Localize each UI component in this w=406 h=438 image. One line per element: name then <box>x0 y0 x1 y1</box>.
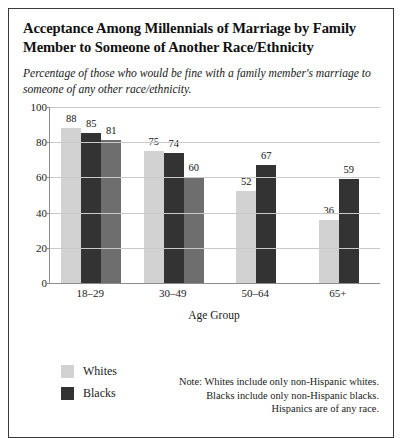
bar-blacks-30–49: 74 <box>164 153 184 283</box>
bar-blacks-50–64: 67 <box>256 165 276 283</box>
bar-group: 3659 <box>319 107 359 283</box>
bar-group: 888581 <box>61 107 121 283</box>
note-line: Blacks include only non-Hispanic blacks. <box>149 389 379 403</box>
legend-swatch-icon <box>61 365 74 378</box>
bar-whites-18–29: 88 <box>61 128 81 283</box>
note-line: Hispanics are of any race. <box>149 402 379 416</box>
chart-note: Note: Whites include only non-Hispanic w… <box>149 375 379 416</box>
y-axis-tickmark <box>46 283 50 284</box>
gridline <box>50 177 380 178</box>
bar-value-label: 81 <box>106 125 117 136</box>
plot-area: 88858175746052673659 <box>49 107 380 284</box>
note-line: Note: Whites include only non-Hispanic w… <box>149 375 379 389</box>
bar-value-label: 59 <box>344 164 355 175</box>
x-axis-tick-label: 65+ <box>329 287 346 299</box>
gridline <box>50 213 380 214</box>
legend-swatch-icon <box>61 387 74 400</box>
gridline <box>50 142 380 143</box>
y-axis-tick-label: 40 <box>9 207 47 219</box>
y-axis-tickmark <box>46 248 50 249</box>
bar-group: 5267 <box>236 107 276 283</box>
title-block: Acceptance Among Millennials of Marriage… <box>23 19 381 98</box>
bar-blacks-18–29: 85 <box>81 133 101 283</box>
bar-value-label: 36 <box>324 205 335 216</box>
page-title: Acceptance Among Millennials of Marriage… <box>23 19 381 57</box>
y-axis-tickmark <box>46 213 50 214</box>
y-axis-tickmark <box>46 142 50 143</box>
bar-value-label: 60 <box>189 162 200 173</box>
bar-whites-50–64: 52 <box>236 191 256 283</box>
y-axis-tickmark <box>46 107 50 108</box>
bar-hispanics-30–49: 60 <box>184 177 204 283</box>
bar-value-label: 85 <box>86 118 97 129</box>
x-axis-tick-label: 50–64 <box>242 287 270 299</box>
x-axis-tick-labels: 18–2930–4950–6465+ <box>49 287 379 303</box>
bar-whites-65+: 36 <box>319 220 339 283</box>
y-axis-tickmark <box>46 177 50 178</box>
x-axis-title: Age Group <box>49 309 379 321</box>
y-axis-tick-label: 0 <box>9 277 47 289</box>
gridline <box>50 248 380 249</box>
legend-label: Blacks <box>83 386 116 401</box>
y-axis-tick-labels: 020406080100 <box>9 107 47 283</box>
chart-subtitle: Percentage of those who would be fine wi… <box>23 66 375 98</box>
legend-label: Whites <box>83 364 117 379</box>
bar-group: 757460 <box>144 107 204 283</box>
y-axis-tick-label: 60 <box>9 171 47 183</box>
x-axis-tick-label: 30–49 <box>159 287 187 299</box>
bar-blacks-65+: 59 <box>339 179 359 283</box>
bar-value-label: 88 <box>66 113 77 124</box>
x-axis-tick-label: 18–29 <box>77 287 105 299</box>
y-axis-tick-label: 100 <box>9 101 47 113</box>
bars-layer: 88858175746052673659 <box>50 107 380 283</box>
bar-value-label: 67 <box>261 150 272 161</box>
figure-frame: Acceptance Among Millennials of Marriage… <box>8 8 394 438</box>
bar-value-label: 74 <box>169 138 180 149</box>
chart-plot-wrapper: 020406080100 88858175746052673659 18–293… <box>9 107 395 307</box>
gridline <box>50 107 380 108</box>
y-axis-tick-label: 80 <box>9 136 47 148</box>
bar-whites-30–49: 75 <box>144 151 164 283</box>
y-axis-tick-label: 20 <box>9 242 47 254</box>
